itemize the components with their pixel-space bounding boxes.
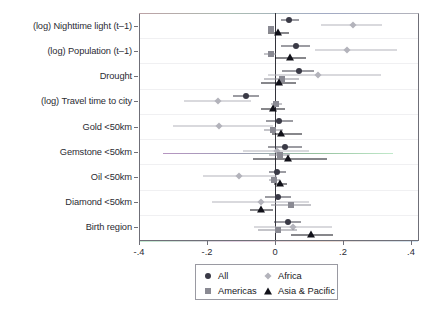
frame-left bbox=[139, 13, 140, 241]
legend-label-all: All bbox=[218, 271, 228, 281]
confidence-interval bbox=[268, 74, 381, 75]
y-axis-tick bbox=[134, 26, 138, 27]
y-axis-label: Gold <50km bbox=[83, 122, 132, 132]
x-axis-tick bbox=[139, 241, 140, 245]
y-axis-label: (log) Population (t–1) bbox=[47, 46, 132, 56]
point-marker-triangle bbox=[277, 129, 285, 136]
color-fringe bbox=[139, 13, 418, 14]
y-axis-tick bbox=[134, 51, 138, 52]
y-axis-tick bbox=[134, 76, 138, 77]
point-marker-diamond bbox=[349, 21, 356, 28]
point-marker-diamond bbox=[215, 122, 222, 129]
y-axis-label: Oil <50km bbox=[91, 172, 132, 182]
point-marker-circle bbox=[243, 93, 249, 99]
legend: AllAfricaAmericasAsia & Pacific bbox=[195, 264, 338, 300]
point-marker-diamond bbox=[344, 46, 351, 53]
point-marker-circle bbox=[274, 169, 280, 175]
confidence-interval bbox=[173, 125, 273, 126]
legend-marker-circle bbox=[205, 273, 211, 279]
y-axis-label: Drought bbox=[100, 71, 132, 81]
point-marker-circle bbox=[276, 118, 282, 124]
grid-line bbox=[140, 190, 418, 191]
y-axis-tick bbox=[134, 101, 138, 102]
x-axis-tick bbox=[343, 241, 344, 245]
y-axis-label: Birth region bbox=[86, 222, 132, 232]
point-marker-triangle bbox=[269, 104, 277, 111]
point-marker-triangle bbox=[307, 230, 315, 237]
legend-marker-square bbox=[205, 288, 211, 294]
y-axis-label: (log) Nighttime light (t–1) bbox=[33, 21, 132, 31]
point-marker-triangle bbox=[257, 205, 265, 212]
x-axis-tick-label: -.2 bbox=[202, 247, 213, 257]
legend-marker-diamond bbox=[264, 272, 271, 279]
point-marker-circle bbox=[275, 194, 281, 200]
y-axis-tick bbox=[134, 202, 138, 203]
x-axis-tick-label: .4 bbox=[407, 247, 415, 257]
color-fringe bbox=[139, 241, 418, 242]
point-marker-triangle bbox=[275, 78, 283, 85]
x-axis-tick bbox=[275, 241, 276, 245]
legend-label-africa: Africa bbox=[278, 271, 302, 281]
point-marker-square bbox=[270, 127, 276, 133]
point-marker-circle bbox=[296, 68, 302, 74]
legend-label-americas: Americas bbox=[218, 286, 257, 296]
confidence-interval bbox=[315, 49, 398, 50]
y-axis-tick bbox=[134, 227, 138, 228]
point-marker-square bbox=[275, 227, 281, 233]
grid-line bbox=[140, 139, 418, 140]
point-marker-diamond bbox=[235, 172, 242, 179]
point-marker-circle bbox=[285, 219, 291, 225]
grid-line bbox=[140, 164, 418, 165]
point-marker-square bbox=[277, 152, 283, 158]
legend-label-asia-pacific: Asia & Pacific bbox=[278, 286, 335, 296]
point-marker-diamond bbox=[258, 198, 265, 205]
point-marker-triangle bbox=[286, 53, 294, 60]
x-axis-tick-label: 0 bbox=[272, 247, 277, 257]
x-axis-tick-label: -.4 bbox=[134, 247, 145, 257]
point-marker-circle bbox=[282, 144, 288, 150]
point-marker-circle bbox=[286, 17, 292, 23]
point-marker-triangle bbox=[274, 28, 282, 35]
y-axis-tick bbox=[134, 177, 138, 178]
point-marker-diamond bbox=[214, 97, 221, 104]
point-marker-square bbox=[288, 202, 294, 208]
x-axis-tick bbox=[411, 241, 412, 245]
x-axis-tick-label: .2 bbox=[339, 247, 347, 257]
y-axis-tick bbox=[134, 127, 138, 128]
point-marker-triangle bbox=[284, 154, 292, 161]
point-marker-triangle bbox=[276, 179, 284, 186]
y-axis-label: (log) Travel time to city bbox=[41, 96, 132, 106]
point-marker-square bbox=[268, 51, 274, 57]
point-marker-circle bbox=[293, 43, 299, 49]
grid-line bbox=[140, 63, 418, 64]
grid-line bbox=[140, 114, 418, 115]
grid-line bbox=[140, 89, 418, 90]
legend-marker-triangle bbox=[264, 288, 272, 295]
y-axis-label: Diamond <50km bbox=[65, 197, 132, 207]
grid-line bbox=[140, 215, 418, 216]
coefficient-plot: (log) Nighttime light (t–1)(log) Populat… bbox=[0, 0, 433, 313]
y-axis-tick bbox=[134, 152, 138, 153]
point-marker-diamond bbox=[314, 71, 321, 78]
y-axis-label: Gemstone <50km bbox=[60, 147, 132, 157]
x-axis-tick bbox=[207, 241, 208, 245]
grid-line bbox=[140, 38, 418, 39]
frame-right bbox=[418, 13, 419, 241]
